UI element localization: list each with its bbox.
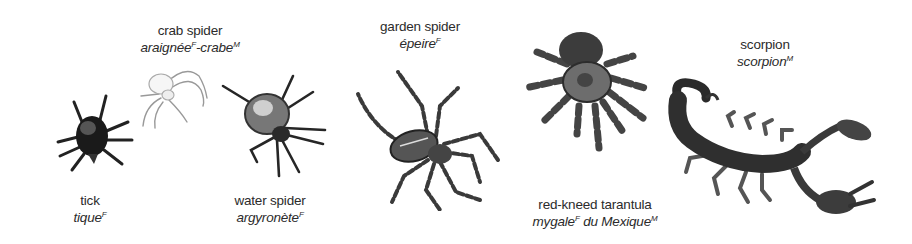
english-name: water spider [210, 192, 330, 209]
scorpion-illustration [662, 78, 887, 218]
scorpion-label: scorpion scorpionM [705, 36, 825, 70]
tarantula-illustration [515, 22, 660, 162]
french-name: scorpionM [705, 53, 825, 70]
english-name: crab spider [120, 22, 260, 39]
tick-label: tick tiqueF [55, 192, 125, 226]
water-spider-label: water spider argyronèteF [210, 192, 330, 226]
french-name: épeireF [355, 35, 485, 52]
crab-spider-label: crab spider araignéeF-crabeM [120, 22, 260, 56]
french-name: argyronèteF [210, 209, 330, 226]
garden-spider-label: garden spider épeireF [355, 18, 485, 52]
garden-spider-illustration [352, 66, 507, 211]
english-name: garden spider [355, 18, 485, 35]
french-name: araignéeF-crabeM [120, 39, 260, 56]
english-name: tick [55, 192, 125, 209]
english-name: scorpion [705, 36, 825, 53]
french-name: tiqueF [55, 209, 125, 226]
english-name: red-kneed tarantula [510, 196, 680, 213]
gender-marker: F [102, 210, 107, 219]
crab-spider-illustration [135, 62, 215, 134]
french-name: mygaleF du MexiqueM [510, 213, 680, 230]
tarantula-label: red-kneed tarantula mygaleF du MexiqueM [510, 196, 680, 230]
water-spider-illustration [215, 72, 340, 182]
tick-illustration [48, 92, 138, 177]
